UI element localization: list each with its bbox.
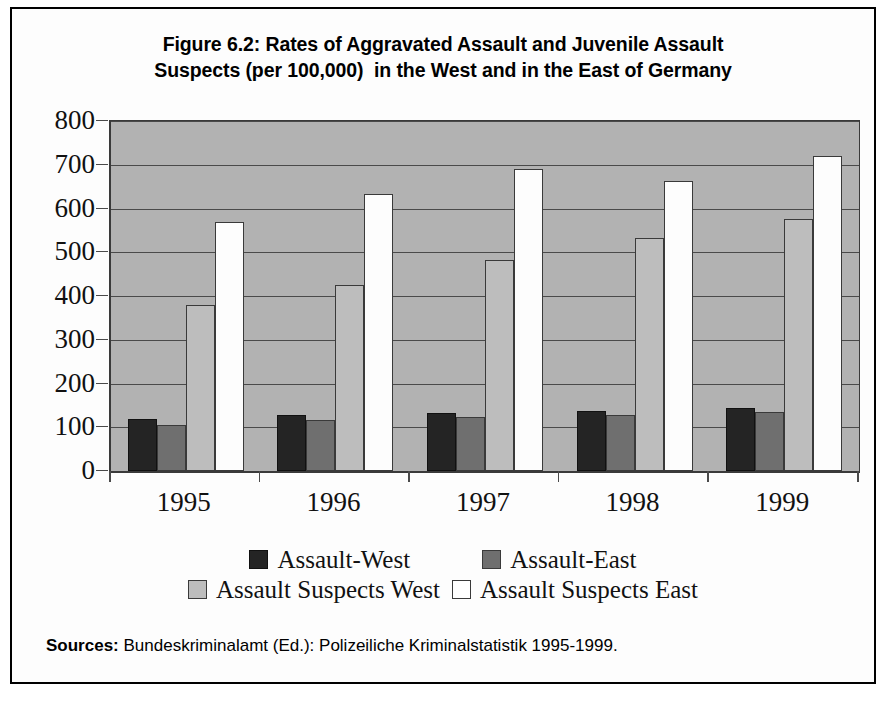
x-axis-tick-mark [558, 471, 560, 482]
bar-group [128, 121, 244, 471]
x-axis-tick-mark [109, 471, 111, 482]
source-text: Bundeskriminalamt (Ed.): Polizeiliche Kr… [119, 636, 618, 655]
y-axis-tick-label: 200 [15, 369, 95, 396]
bar[interactable] [277, 415, 306, 471]
bar[interactable] [335, 285, 364, 471]
x-axis-tick-label: 1998 [606, 489, 660, 516]
bar[interactable] [606, 415, 635, 471]
bar-group [726, 121, 842, 471]
bar-group [277, 121, 393, 471]
legend-label: Assault-West [277, 547, 410, 572]
x-axis-labels: 19951996199719981999 [109, 489, 859, 525]
legend-label: Assault Suspects West [216, 577, 440, 602]
figure-frame: Figure 6.2: Rates of Aggravated Assault … [10, 7, 876, 684]
y-axis: 0100200300400500600700800 [12, 120, 95, 470]
legend-item[interactable]: Assault Suspects West [188, 577, 440, 602]
legend-row: Assault-WestAssault-East [12, 547, 874, 572]
y-axis-tick-label: 0 [15, 457, 95, 484]
x-axis-tick-label: 1996 [306, 489, 360, 516]
legend-label: Assault-East [510, 547, 636, 572]
bar[interactable] [427, 413, 456, 471]
bar[interactable] [726, 408, 755, 471]
y-axis-tick-mark [96, 251, 108, 252]
legend-swatch-icon [452, 580, 471, 599]
bar[interactable] [784, 219, 813, 471]
bar[interactable] [514, 169, 543, 471]
source-note: Sources: Bundeskriminalamt (Ed.): Polize… [46, 636, 618, 656]
bar[interactable] [577, 411, 606, 471]
legend-item[interactable]: Assault Suspects East [452, 577, 698, 602]
bar[interactable] [157, 425, 186, 471]
y-axis-tick-label: 300 [15, 325, 95, 352]
y-axis-tick-label: 700 [15, 150, 95, 177]
y-axis-tick-mark [96, 470, 108, 471]
y-axis-tick-mark [96, 120, 108, 121]
legend-item[interactable]: Assault-West [249, 547, 410, 572]
y-axis-tick-mark [96, 383, 108, 384]
bar[interactable] [755, 412, 784, 471]
legend-label: Assault Suspects East [480, 577, 698, 602]
x-axis-tick-mark [259, 471, 261, 482]
plot-area [109, 120, 860, 473]
bar[interactable] [635, 238, 664, 471]
bar[interactable] [186, 305, 215, 471]
bar[interactable] [664, 181, 693, 472]
y-axis-tick-label: 600 [15, 194, 95, 221]
legend-swatch-icon [249, 550, 268, 569]
legend-swatch-icon [188, 580, 207, 599]
y-axis-tick-label: 100 [15, 413, 95, 440]
source-label: Sources: [46, 636, 119, 655]
y-axis-tick-mark [96, 426, 108, 427]
x-axis-tick-mark [857, 471, 859, 482]
x-axis-tick-mark [408, 471, 410, 482]
legend-row: Assault Suspects WestAssault Suspects Ea… [12, 577, 874, 602]
x-axis-tick-mark [707, 471, 709, 482]
bar[interactable] [215, 222, 244, 471]
bar-group [577, 121, 693, 471]
bar[interactable] [128, 419, 157, 472]
x-axis-tick-label: 1997 [456, 489, 510, 516]
x-axis-ticks [109, 471, 859, 482]
legend-swatch-icon [482, 550, 501, 569]
legend-item[interactable]: Assault-East [482, 547, 636, 572]
y-axis-tick-label: 400 [15, 282, 95, 309]
y-axis-tick-label: 500 [15, 238, 95, 265]
bar[interactable] [813, 156, 842, 471]
y-axis-tick-mark [96, 339, 108, 340]
bar[interactable] [485, 260, 514, 471]
x-axis-tick-label: 1999 [755, 489, 809, 516]
y-axis-tick-mark [96, 208, 108, 209]
bar-group [427, 121, 543, 471]
bar[interactable] [306, 420, 335, 471]
bar[interactable] [364, 194, 393, 471]
y-axis-tick-mark [96, 164, 108, 165]
x-axis-tick-label: 1995 [157, 489, 211, 516]
y-axis-tick-mark [96, 295, 108, 296]
chart-legend: Assault-WestAssault-EastAssault Suspects… [12, 547, 874, 607]
y-axis-tick-label: 800 [15, 107, 95, 134]
bar[interactable] [456, 417, 485, 471]
